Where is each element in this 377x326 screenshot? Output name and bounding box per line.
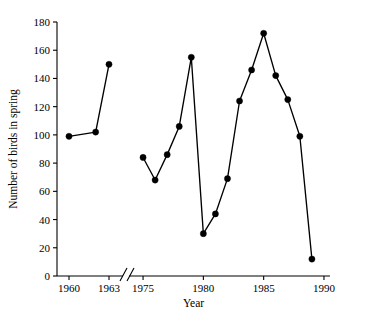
x-tick-label: 1963 <box>98 282 121 294</box>
data-point-marker <box>66 133 72 139</box>
y-tick-label: 160 <box>34 44 51 56</box>
y-tick-label: 180 <box>34 16 51 28</box>
data-point-marker <box>176 123 182 129</box>
axis-break-slash-1 <box>120 268 127 281</box>
y-tick-label: 40 <box>39 214 51 226</box>
data-point-marker <box>106 61 112 67</box>
series-line <box>143 33 312 259</box>
data-point-marker <box>236 98 242 104</box>
data-point-marker <box>285 97 291 103</box>
line-chart-plot: 0204060801001201401601801960196319751980… <box>0 0 377 326</box>
data-point-marker <box>152 177 158 183</box>
data-point-marker <box>224 176 230 182</box>
data-series <box>140 30 315 262</box>
data-point-marker <box>261 30 267 36</box>
data-point-marker <box>273 73 279 79</box>
chart-axes <box>57 22 330 281</box>
y-tick-label: 120 <box>34 101 51 113</box>
y-tick-label: 20 <box>39 242 51 254</box>
chart-figure: 0204060801001201401601801960196319751980… <box>0 0 377 326</box>
y-tick-label: 140 <box>34 72 51 84</box>
x-tick-label: 1985 <box>253 282 276 294</box>
x-axis-title: Year <box>183 297 204 309</box>
data-point-marker <box>164 152 170 158</box>
y-axis-title: Number of birds in spring <box>7 89 20 209</box>
series-line <box>69 64 109 136</box>
x-tick-label: 1980 <box>192 282 215 294</box>
data-point-marker <box>249 67 255 73</box>
y-axis-ticks: 020406080100120140160180 <box>34 16 58 282</box>
y-tick-label: 80 <box>39 157 51 169</box>
x-tick-label: 1990 <box>313 282 336 294</box>
data-point-marker <box>93 129 99 135</box>
data-series <box>66 61 112 139</box>
y-tick-label: 60 <box>39 185 51 197</box>
axis-break-slash-2 <box>127 268 134 281</box>
data-point-marker <box>309 256 315 262</box>
data-point-marker <box>188 54 194 60</box>
x-axis-ticks: 196019631975198019851990 <box>58 276 335 294</box>
x-tick-label: 1960 <box>58 282 81 294</box>
y-tick-label: 0 <box>45 270 51 282</box>
data-point-marker <box>212 211 218 217</box>
data-point-marker <box>140 154 146 160</box>
data-point-marker <box>297 133 303 139</box>
x-tick-label: 1975 <box>132 282 155 294</box>
data-point-marker <box>200 231 206 237</box>
y-tick-label: 100 <box>34 129 51 141</box>
